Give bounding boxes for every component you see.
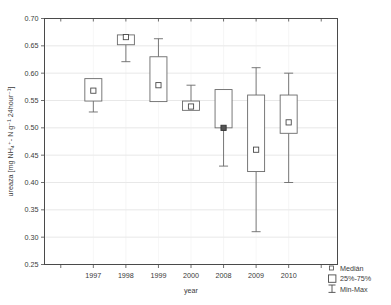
x-tick-label: 2009 <box>248 271 264 280</box>
x-tick-label: 2010 <box>281 271 297 280</box>
box-plot-item <box>280 73 297 182</box>
y-tick-label: 0.55 <box>25 96 39 105</box>
legend-label-quartiles: 25%-75% <box>340 274 372 283</box>
quartile-box <box>215 90 232 128</box>
median-marker <box>286 120 291 125</box>
median-marker <box>221 125 226 130</box>
legend-label-median: Medián <box>340 264 364 273</box>
y-tick-label: 0.60 <box>25 69 39 78</box>
y-tick-label: 0.30 <box>25 233 39 242</box>
boxplot-chart: 0.250.300.350.400.450.500.550.600.650.70… <box>0 0 391 305</box>
median-marker <box>188 104 193 109</box>
y-tick-label: 0.35 <box>25 205 39 214</box>
quartile-box <box>280 95 297 133</box>
x-axis-title: year <box>184 286 199 295</box>
box-plot-item <box>85 79 102 112</box>
median-marker <box>123 34 128 39</box>
box-plot-item <box>248 68 265 232</box>
median-marker <box>156 83 161 88</box>
x-tick-label: 1998 <box>118 271 134 280</box>
legend-label-range: Min-Max <box>340 285 368 294</box>
chart-canvas: 0.250.300.350.400.450.500.550.600.650.70… <box>0 0 391 305</box>
y-tick-label: 0.45 <box>25 151 39 160</box>
y-tick-label: 0.25 <box>25 260 39 269</box>
y-axis-title: ureaza [mg NH₄⁺- N g⁻¹ 24hour⁻¹] <box>6 86 15 196</box>
box-plot-item <box>183 85 200 110</box>
legend-median-marker <box>330 266 334 270</box>
median-marker <box>91 88 96 93</box>
quartile-box <box>150 57 167 102</box>
y-tick-label: 0.70 <box>25 14 39 23</box>
x-tick-label: 2000 <box>183 271 199 280</box>
box-plot-item <box>150 39 167 102</box>
box-plot-item <box>215 90 232 167</box>
x-tick-label: 2008 <box>216 271 232 280</box>
y-tick-label: 0.40 <box>25 178 39 187</box>
legend: Medián25%-75%Min-Max <box>329 264 372 294</box>
x-tick-label: 1997 <box>85 271 101 280</box>
y-tick-label: 0.50 <box>25 123 39 132</box>
quartile-box <box>248 95 265 172</box>
y-tick-label: 0.65 <box>25 41 39 50</box>
median-marker <box>254 147 259 152</box>
x-tick-label: 1999 <box>150 271 166 280</box>
legend-quartile-marker <box>329 275 336 282</box>
box-plot-item <box>117 34 134 61</box>
